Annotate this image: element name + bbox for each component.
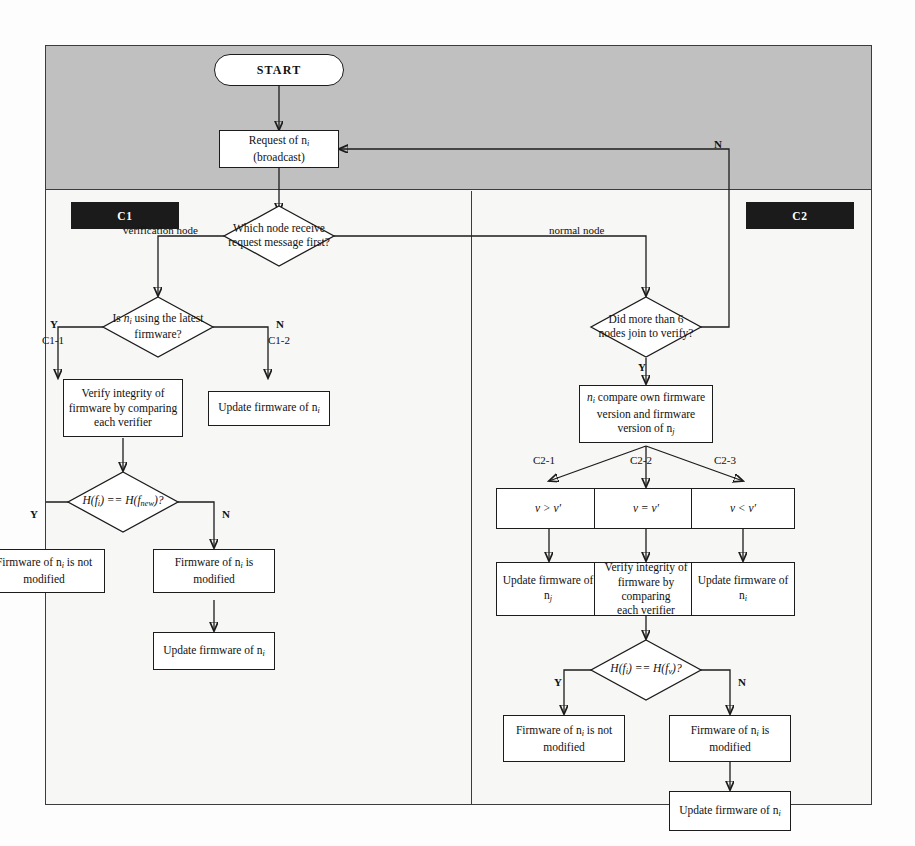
update-left-bottom-a: Update firmware of n	[163, 644, 262, 656]
c1-tag-label: C1	[117, 210, 132, 222]
request-subscript: i	[307, 140, 309, 149]
update-right-bottom-text: Update firmware of ni	[679, 803, 781, 820]
verify-right-line3: each verifier	[617, 603, 675, 617]
fw-mod-left-a: Firmware of n	[175, 556, 241, 568]
firmware-modified-left-node: Firmware of ni is modified	[153, 549, 275, 593]
compare-c: version of n	[617, 422, 672, 434]
verify-left-line3: each verifier	[94, 415, 152, 429]
request-text: Request of n	[249, 134, 307, 146]
update-left-bottom-text: Update firmware of ni	[163, 643, 265, 660]
verify-integrity-right-node: Verify integrity of firmware by comparin…	[594, 562, 698, 616]
loop-back-n-label: N	[714, 138, 722, 151]
left-hash-y-label: Y	[30, 508, 38, 521]
fw-not-mod-right-line1: Firmware of ni is not	[516, 723, 612, 740]
start-label: START	[257, 63, 302, 78]
fw-not-mod-right-a: Firmware of n	[516, 724, 582, 736]
start-node: START	[214, 54, 344, 86]
verify-left-line1: Verify integrity of	[81, 386, 164, 400]
left-hash-n-label: N	[222, 508, 230, 521]
request-node: Request of ni (broadcast)	[219, 130, 339, 168]
update-right-bottom-sub: i	[779, 809, 781, 818]
right-hash-y-label: Y	[554, 676, 562, 689]
v-greater-node: v > v′	[496, 488, 600, 529]
fw-not-mod-left-line1: Firmware of ni is not	[0, 555, 92, 572]
fw-not-mod-left-b: is not	[64, 556, 92, 568]
c1-y-text: Y	[50, 318, 58, 330]
c1-c2-divider	[471, 191, 472, 804]
c1-1-label: C1-1	[42, 334, 64, 347]
fw-mod-right-text: Firmware of ni is modified	[674, 723, 786, 754]
verification-node-label: verification node	[123, 224, 198, 237]
which-node-decision: Which node receive request message first…	[224, 206, 334, 266]
hash-compare-left-decision: H(fi) == H(fnew)?	[68, 472, 178, 532]
update-nj-text: Update firmware of nj	[501, 573, 595, 604]
request-line-2: (broadcast)	[253, 150, 305, 164]
c2-1-label: C2-1	[533, 454, 555, 467]
firmware-modified-right-node: Firmware of ni is modified	[669, 715, 791, 762]
firmware-not-modified-right-node: Firmware of ni is not modified	[503, 715, 625, 762]
update-c23-a: Update firmware of n	[698, 574, 789, 600]
fw-not-mod-right-b: is not	[584, 724, 612, 736]
more6-y-label: Y	[638, 361, 646, 374]
c2-2-label: C2-2	[630, 454, 652, 467]
update-c12-sub: i	[318, 406, 320, 415]
verify-right-line1: Verify integrity of	[604, 560, 687, 574]
fw-mod-left-text: Firmware of ni is modified	[158, 555, 270, 586]
update-c12-text: Update firmware of ni	[218, 400, 320, 417]
v-equal-label: v = v′	[633, 501, 659, 515]
verify-left-line2: firmware by comparing	[69, 401, 178, 415]
verify-integrity-left-node: Verify integrity of firmware by comparin…	[63, 379, 183, 437]
top-gray-band	[46, 46, 871, 190]
more-than-6-nodes-decision: Did more than 6 nodes join to verify?	[591, 297, 701, 357]
v-equal-node: v = v′	[594, 488, 698, 529]
update-right-bottom-a: Update firmware of n	[679, 804, 778, 816]
c1-n-label: N	[276, 318, 284, 331]
firmware-not-modified-left-node: Firmware of ni is not modified	[0, 549, 105, 593]
update-nj-a: Update firmware of n	[503, 574, 594, 600]
flowchart-frame: START Request of ni (broadcast) N C1 C2 …	[45, 45, 872, 805]
right-hash-n-label: N	[738, 676, 746, 689]
update-c23-text: Update firmware of ni	[696, 573, 790, 604]
v-less-label: v < v′	[730, 501, 756, 515]
compare-a: compare own firmware	[595, 391, 705, 403]
update-firmware-left-bottom-node: Update firmware of ni	[153, 632, 275, 670]
update-firmware-c1-2-node: Update firmware of ni	[208, 391, 330, 426]
c1-y-label: Y	[50, 318, 58, 331]
verify-right-line2: firmware by comparing	[599, 575, 693, 604]
c2-tag: C2	[746, 202, 854, 229]
c1-n-text: N	[276, 318, 284, 330]
hash-compare-right-decision: H(fi) == H(fv)?	[591, 640, 701, 700]
v-greater-label: v > v′	[535, 501, 561, 515]
fw-not-mod-left-line2: modified	[23, 572, 65, 586]
request-line-1: Request of ni	[249, 133, 309, 150]
update-c12-a: Update firmware of n	[218, 401, 317, 413]
compare-line3: version of nj	[617, 421, 674, 438]
fw-not-mod-left-a: Firmware of n	[0, 556, 62, 568]
is-latest-firmware-decision: Is ni using the latest firmware?	[103, 297, 213, 357]
update-left-bottom-sub: i	[263, 649, 265, 658]
figure-canvas: START Request of ni (broadcast) N C1 C2 …	[0, 0, 915, 846]
update-nj-sub: j	[550, 594, 552, 603]
update-firmware-c2-3-node: Update firmware of ni	[691, 562, 795, 616]
compare-line1: ni compare own firmware	[587, 390, 705, 407]
compare-versions-node: ni compare own firmware version and firm…	[579, 385, 713, 443]
v-less-node: v < v′	[691, 488, 795, 529]
compare-line2: version and firmware	[597, 407, 695, 421]
c1-2-label: C1-2	[268, 334, 290, 347]
fw-mod-right-a: Firmware of n	[691, 724, 757, 736]
update-c23-sub: i	[745, 594, 747, 603]
update-firmware-nj-node: Update firmware of nj	[496, 562, 600, 616]
fw-not-mod-right-line2: modified	[543, 740, 585, 754]
update-firmware-right-bottom-node: Update firmware of ni	[669, 791, 791, 831]
compare-sub2: j	[672, 428, 674, 437]
c2-tag-label: C2	[792, 210, 807, 222]
normal-node-label: normal node	[549, 224, 604, 237]
c2-3-label: C2-3	[714, 454, 736, 467]
